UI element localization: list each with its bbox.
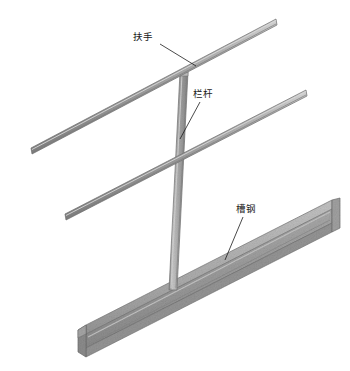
diagram-canvas: 扶手 栏杆 槽钢 bbox=[0, 0, 350, 371]
upper-rail-shadow bbox=[32, 24, 276, 153]
label-baluster: 栏杆 bbox=[193, 88, 214, 99]
structural-diagram: 扶手 栏杆 槽钢 bbox=[0, 0, 350, 371]
label-channel-steel: 槽钢 bbox=[236, 203, 257, 214]
leader-line-handrail bbox=[160, 44, 196, 66]
channel-steel-beam bbox=[78, 198, 340, 357]
baluster-post bbox=[169, 72, 188, 290]
upper-handrail-bar bbox=[31, 19, 277, 154]
annotation-layer: 扶手 栏杆 槽钢 bbox=[133, 31, 257, 260]
channel-shadow-line bbox=[88, 220, 330, 345]
channel-top-flange bbox=[86, 200, 332, 334]
channel-web-lower bbox=[86, 223, 332, 357]
channel-highlight-line bbox=[88, 212, 330, 337]
channel-right-end-cap bbox=[332, 198, 340, 232]
label-handrail: 扶手 bbox=[133, 31, 154, 42]
